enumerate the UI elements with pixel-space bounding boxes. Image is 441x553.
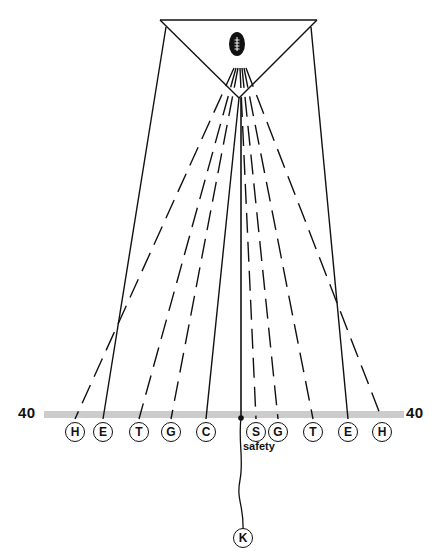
kicker-dot	[238, 415, 244, 421]
yard-marker-left: 40	[18, 404, 36, 421]
dash-line-g-left	[171, 68, 238, 419]
yard-marker-right: 40	[406, 404, 424, 421]
kicker-approach-line	[239, 418, 243, 530]
lane-line-left-end	[103, 27, 166, 419]
v-right-line	[239, 20, 317, 98]
player-c: C	[196, 422, 216, 442]
dash-line-h-right	[246, 68, 382, 419]
player-t-right: T	[303, 422, 323, 442]
player-g-left: G	[161, 422, 181, 442]
player-h-left: H	[65, 422, 85, 442]
player-t-left: T	[129, 422, 149, 442]
player-g-right: G	[268, 422, 288, 442]
lane-line-right-end	[311, 27, 348, 419]
player-kicker: K	[233, 528, 253, 548]
player-s: S	[246, 422, 266, 442]
player-e-left: E	[93, 422, 113, 442]
yard-line-40	[44, 411, 404, 418]
player-h-right: H	[372, 422, 392, 442]
lane-line-center	[206, 98, 239, 419]
dash-line-s	[240, 68, 256, 419]
dash-line-t-left	[139, 68, 236, 419]
player-e-right: E	[338, 422, 358, 442]
football-icon	[229, 32, 245, 56]
v-left-line	[160, 20, 239, 98]
safety-label: safety	[243, 440, 275, 452]
dash-line-h-left	[75, 68, 234, 419]
kickoff-coverage-diagram	[0, 0, 441, 553]
dash-line-t-right	[244, 68, 313, 419]
